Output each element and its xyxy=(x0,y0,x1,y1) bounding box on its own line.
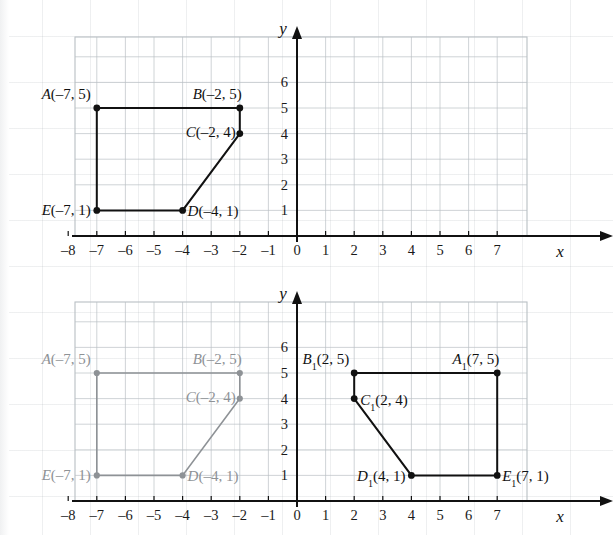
y-axis-name: y xyxy=(277,284,287,303)
top-coordinate-plane: –8–7–6–5–4–3–2–101234567x654321yA(–7, 5)… xyxy=(0,0,613,268)
y-tick-label: 4 xyxy=(281,391,289,407)
y-tick-label: 6 xyxy=(281,339,288,355)
point-label: C1(2, 4) xyxy=(360,392,408,413)
x-tick-label: –1 xyxy=(260,242,276,258)
y-tick-label: 1 xyxy=(281,202,288,218)
point-label: C(–2, 4) xyxy=(186,389,236,406)
x-tick-label: 1 xyxy=(322,242,329,258)
y-tick-label: 5 xyxy=(281,365,288,381)
vertex-point xyxy=(351,395,358,402)
point-label: A1(7, 5) xyxy=(452,351,500,372)
point-label: C(–2, 4) xyxy=(186,124,236,141)
x-tick-label: –1 xyxy=(260,507,276,523)
y-axis-ticks: 654321 xyxy=(281,74,289,218)
y-tick-label: 3 xyxy=(281,151,288,167)
y-tick-label: 2 xyxy=(281,442,288,458)
point-label: E(–7, 1) xyxy=(41,202,91,219)
x-tick-label: –8 xyxy=(60,242,76,258)
figure-page: –8–7–6–5–4–3–2–101234567x654321yA(–7, 5)… xyxy=(0,0,613,535)
x-tick-label: 7 xyxy=(494,507,501,523)
x-tick-label: –4 xyxy=(174,507,190,523)
y-tick-label: 6 xyxy=(281,74,288,90)
x-tick-label: –2 xyxy=(232,242,248,258)
x-axis-name: x xyxy=(555,507,564,526)
vertex-point xyxy=(237,396,243,402)
grid-lines xyxy=(75,37,527,236)
x-tick-label: –2 xyxy=(232,507,248,523)
x-tick-label: 4 xyxy=(408,242,416,258)
vertex-point xyxy=(179,207,186,214)
bottom-coordinate-plane: –8–7–6–5–4–3–2–101234567x654321yA(–7, 5)… xyxy=(0,265,613,535)
top-graph-svg: –8–7–6–5–4–3–2–101234567x654321yA(–7, 5)… xyxy=(0,0,613,268)
point-label: A(–7, 5) xyxy=(41,351,91,368)
x-tick-label: –3 xyxy=(203,242,219,258)
x-tick-label: 0 xyxy=(293,507,300,523)
x-tick-label: –7 xyxy=(89,242,105,258)
vertex-point xyxy=(236,130,243,137)
x-tick-label: –4 xyxy=(174,242,190,258)
x-tick-label: 3 xyxy=(379,242,386,258)
vertex-point xyxy=(494,472,501,479)
point-label: D(–4, 1) xyxy=(187,468,239,485)
vertex-point xyxy=(94,370,100,376)
x-tick-label: 0 xyxy=(293,242,300,258)
x-tick-label: –8 xyxy=(60,507,76,523)
point-label: E(–7, 1) xyxy=(41,467,91,484)
vertex-point xyxy=(494,370,501,377)
vertex-point xyxy=(180,472,186,478)
series-pentagon-A1B1C1D1E1-image: A1(7, 5)B1(2, 5)C1(2, 4)D1(4, 1)E1(7, 1) xyxy=(303,351,549,489)
x-tick-label: 5 xyxy=(436,507,443,523)
x-tick-label: –5 xyxy=(146,242,162,258)
x-tick-label: –5 xyxy=(146,507,162,523)
point-label: D1(4, 1) xyxy=(356,468,405,489)
bottom-graph-svg: –8–7–6–5–4–3–2–101234567x654321yA(–7, 5)… xyxy=(0,265,613,535)
x-tick-label: 4 xyxy=(408,507,416,523)
vertex-point xyxy=(408,472,415,479)
point-label: A(–7, 5) xyxy=(41,86,91,103)
point-label: E1(7, 1) xyxy=(501,468,549,489)
x-tick-label: 5 xyxy=(436,242,443,258)
x-tick-label: 2 xyxy=(351,507,358,523)
vertex-point xyxy=(351,370,358,377)
x-tick-label: –3 xyxy=(203,507,219,523)
y-axis-name: y xyxy=(277,19,287,38)
vertex-point xyxy=(93,207,100,214)
series-pentagon-ABCDE-preimage: A(–7, 5)B(–2, 5)C(–2, 4)D(–4, 1)E(–7, 1) xyxy=(41,351,243,485)
point-label: D(–4, 1) xyxy=(187,203,239,220)
point-label: B(–2, 5) xyxy=(193,351,242,368)
point-label: B(–2, 5) xyxy=(193,86,242,103)
vertex-point xyxy=(236,105,243,112)
vertex-point xyxy=(94,472,100,478)
x-tick-label: 6 xyxy=(465,507,472,523)
x-tick-label: 7 xyxy=(494,242,501,258)
x-tick-label: –6 xyxy=(117,507,133,523)
x-tick-label: 1 xyxy=(322,507,329,523)
y-tick-label: 2 xyxy=(281,177,288,193)
y-tick-label: 5 xyxy=(281,100,288,116)
series-pentagon-ABCDE: A(–7, 5)B(–2, 5)C(–2, 4)D(–4, 1)E(–7, 1) xyxy=(41,86,244,220)
x-tick-label: –7 xyxy=(89,507,105,523)
y-tick-label: 4 xyxy=(281,126,289,142)
y-axis-ticks: 654321 xyxy=(281,339,289,483)
grid-lines xyxy=(75,302,527,501)
y-tick-label: 1 xyxy=(281,467,288,483)
x-axis-name: x xyxy=(555,242,564,261)
vertex-point xyxy=(93,105,100,112)
x-tick-label: –6 xyxy=(117,242,133,258)
vertex-point xyxy=(237,370,243,376)
x-tick-label: 2 xyxy=(351,242,358,258)
x-tick-label: 3 xyxy=(379,507,386,523)
y-tick-label: 3 xyxy=(281,416,288,432)
x-tick-label: 6 xyxy=(465,242,472,258)
